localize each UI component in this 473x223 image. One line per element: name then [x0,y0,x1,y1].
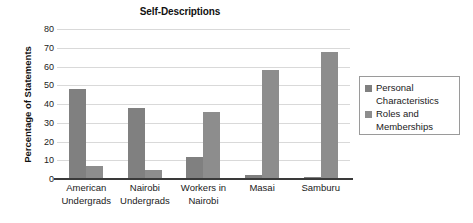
plot-area [57,29,350,179]
bar-group [233,29,292,179]
x-tick-label-line: Nairobi [116,182,175,195]
chart-legend: PersonalCharacteristicsRoles andMembersh… [359,76,460,135]
chart-title: Self-Descriptions [0,6,360,17]
y-tick-label: 20 [32,137,54,147]
x-tick-label: AmericanUndergrads [57,182,116,207]
x-tick-label: NairobiUndergrads [116,182,175,207]
bar-group [291,29,350,179]
legend-swatch-icon [365,85,372,92]
y-tick-label: 40 [32,99,54,109]
y-tick-label: 70 [32,43,54,53]
bar[interactable] [186,157,203,180]
bar[interactable] [203,112,220,180]
legend-label-line: Characteristics [376,95,439,108]
x-tick-label: Workers inNairobi [174,182,233,207]
legend-label-line: Memberships [376,121,433,134]
y-tick-label: 50 [32,80,54,90]
y-tick-label: 80 [32,24,54,34]
bar-chart: Self-Descriptions Percentage of Statemen… [0,0,473,223]
y-tick-label: 30 [32,118,54,128]
x-tick-label: Masai [233,182,292,195]
x-tick-label-line: Undergrads [116,195,175,208]
y-tick-label: 10 [32,155,54,165]
x-tick-label-line: Workers in [174,182,233,195]
legend-label-line: Roles and [376,108,433,121]
legend-swatch-icon [365,111,372,118]
x-tick-label-line: Masai [233,182,292,195]
bar[interactable] [321,52,338,180]
x-tick-label: Samburu [291,182,350,195]
x-axis-line [54,178,353,180]
x-tick-label-line: Nairobi [174,195,233,208]
bar-group [116,29,175,179]
bar-group [174,29,233,179]
legend-item[interactable]: Roles andMemberships [365,108,459,133]
y-tick-label: 0 [32,174,54,184]
bar[interactable] [69,89,86,179]
x-tick-label-line: Undergrads [57,195,116,208]
legend-item[interactable]: PersonalCharacteristics [365,82,459,107]
x-axis-labels: AmericanUndergradsNairobiUndergradsWorke… [57,182,350,220]
y-axis-ticks: 80706050403020100 [30,29,54,179]
bar-group [57,29,116,179]
legend-label-line: Personal [376,82,439,95]
x-tick-label-line: American [57,182,116,195]
legend-label: PersonalCharacteristics [376,82,439,107]
bar[interactable] [128,108,145,179]
legend-label: Roles andMemberships [376,108,433,133]
y-tick-label: 60 [32,62,54,72]
x-tick-label-line: Samburu [291,182,350,195]
bar[interactable] [262,70,279,179]
